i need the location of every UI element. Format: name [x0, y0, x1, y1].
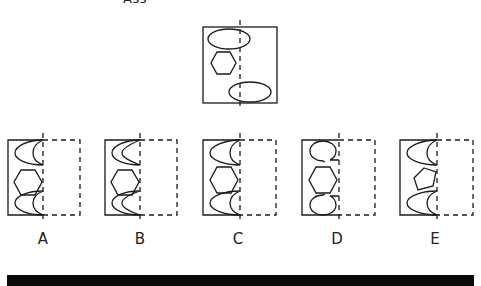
- option-b-label[interactable]: B: [130, 230, 150, 248]
- option-e-label[interactable]: E: [425, 230, 445, 248]
- option-c-label[interactable]: C: [228, 230, 248, 248]
- option-a-label[interactable]: A: [33, 230, 53, 248]
- question-figure: [203, 20, 277, 108]
- bottom-black-bar: [7, 275, 474, 286]
- option-e-figure[interactable]: [400, 133, 473, 220]
- option-a-figure[interactable]: [8, 133, 80, 220]
- option-d-label[interactable]: D: [327, 230, 347, 248]
- option-d-figure[interactable]: [302, 133, 375, 220]
- option-b-figure[interactable]: [105, 133, 177, 220]
- option-c-figure[interactable]: [203, 133, 276, 220]
